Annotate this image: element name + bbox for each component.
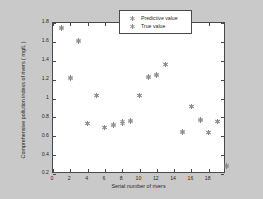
data-point [76,38,81,43]
data-point [224,164,229,169]
y-tick-label: 1.2 [42,76,49,81]
x-tick-mark [53,169,54,172]
x-tick-mark [174,169,175,172]
data-point [59,25,64,30]
data-point [163,62,168,67]
figure-window: Comprehensive pollution indexs of rivers… [0,0,263,199]
data-point [128,119,133,124]
x-tick-mark [140,169,141,172]
y-axis-title: Comprehensive pollution indexs of rivers… [20,25,26,175]
data-point [189,104,194,109]
data-point [85,121,90,126]
y-tick-mark [221,23,224,24]
x-tick-label: 6 [102,176,105,181]
x-tick-label: 2 [68,176,71,181]
y-tick-label: 1 [46,95,49,100]
y-tick-mark [221,42,224,43]
data-point [215,119,220,124]
y-tick-label-group: 0.20.40.60.811.21.41.61.8 [30,22,49,173]
data-point [206,130,211,135]
x-tick-mark [157,169,158,172]
data-point [154,73,159,78]
data-point [189,104,194,109]
data-point [111,123,116,128]
x-tick-mark [105,23,106,26]
y-tick-label: 0.4 [42,152,49,157]
data-point [85,121,90,126]
figure-canvas: Comprehensive pollution indexs of rivers… [10,5,253,188]
x-tick-mark [70,23,71,26]
y-tick-mark [221,174,224,175]
y-tick-mark [53,42,56,43]
y-tick-label: 0.2 [42,170,49,175]
data-point [154,72,159,77]
data-point [68,76,73,81]
data-point [111,122,116,127]
data-point [224,163,229,168]
y-tick-label: 0.6 [42,133,49,138]
legend-entry: Predictive value [123,14,188,22]
chart-legend: Predictive valueTrue value [119,10,192,34]
y-tick-mark [53,80,56,81]
y-tick-mark [221,99,224,100]
x-tick-label: 4 [85,176,88,181]
data-point [94,93,99,98]
y-tick-mark [53,155,56,156]
y-tick-label: 0.8 [42,114,49,119]
data-point [137,93,142,98]
y-tick-mark [221,61,224,62]
x-tick-label: 8 [120,176,123,181]
x-tick-mark [209,169,210,172]
x-tick-label: 0 [51,176,54,181]
y-tick-mark [53,61,56,62]
asterisk-marker-true [123,24,141,29]
x-tick-mark [88,169,89,172]
data-point [120,119,125,124]
x-tick-mark [209,23,210,26]
y-tick-mark [221,117,224,118]
data-point [198,117,203,122]
legend-label: True value [141,23,165,29]
x-tick-mark [70,169,71,172]
legend-entry: True value [123,22,188,30]
data-point [137,93,142,98]
y-tick-mark [53,99,56,100]
legend-label: Predictive value [141,15,178,21]
data-point [94,93,99,98]
y-tick-label: 1.4 [42,57,49,62]
x-tick-mark [88,23,89,26]
x-tick-mark [53,23,54,26]
data-point [120,121,125,126]
data-point [206,130,211,135]
data-point [163,62,168,67]
data-point [68,75,73,80]
data-point [102,125,107,130]
data-point [215,119,220,124]
y-tick-label: 1.8 [42,19,49,24]
y-tick-mark [221,136,224,137]
x-tick-label: 18 [205,176,211,181]
plot-area-box [52,22,225,173]
y-tick-mark [53,136,56,137]
data-point [180,130,185,135]
x-tick-mark [105,169,106,172]
x-tick-label: 16 [188,176,194,181]
x-axis-title: Serial number of rivers [52,183,225,189]
y-tick-mark [53,117,56,118]
asterisk-marker-predictive [123,16,141,21]
data-point [198,118,203,123]
scatter-plot-area [53,23,224,172]
data-point [59,26,64,31]
data-point [180,129,185,134]
x-tick-mark [122,169,123,172]
x-tick-label: 10 [136,176,142,181]
data-point [76,39,81,44]
data-point [102,125,107,130]
x-tick-label: 14 [170,176,176,181]
y-tick-mark [221,80,224,81]
data-point [146,75,151,80]
data-point [146,74,151,79]
x-tick-mark [191,169,192,172]
x-tick-label: 12 [153,176,159,181]
y-tick-label: 1.6 [42,38,49,43]
